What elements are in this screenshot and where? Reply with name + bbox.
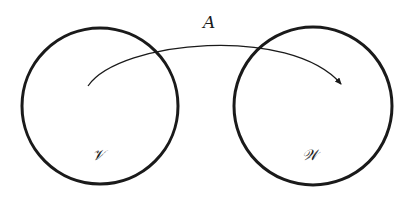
arrow-label-a: A xyxy=(203,14,215,31)
domain-label-v: 𝒱 xyxy=(92,148,104,163)
map-arrow-a xyxy=(88,45,341,86)
codomain-label-w: 𝒲 xyxy=(302,148,318,163)
